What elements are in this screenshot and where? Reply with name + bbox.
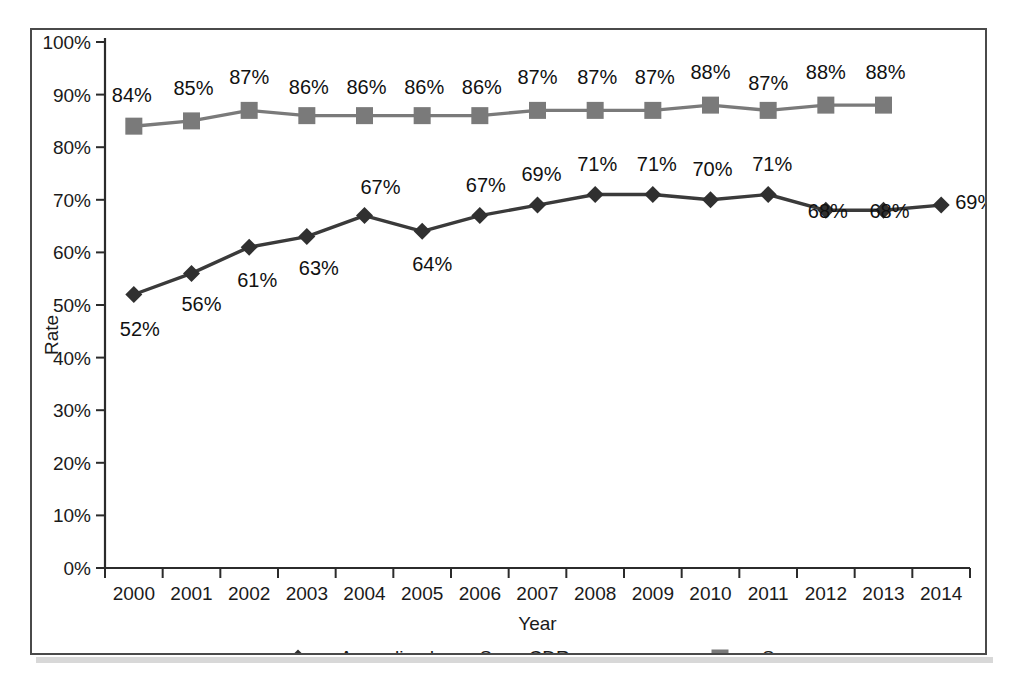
y-axis-tick-label: 50% (53, 295, 91, 316)
y-axis-tick-label: 70% (53, 190, 91, 211)
data-point-cdr (644, 186, 661, 203)
chart-frame: 0%10%20%30%40%50%60%70%80%90%100% 200020… (30, 28, 987, 655)
data-label-cdr: 64% (412, 253, 452, 275)
x-axis-tick-label: 2002 (228, 583, 270, 604)
data-label-cdr: 71% (637, 153, 677, 175)
data-label-cdr: 61% (237, 269, 277, 291)
data-point-cdr (298, 228, 315, 245)
data-point-success (644, 102, 661, 119)
data-label-cdr: 63% (299, 257, 339, 279)
data-point-cdr (241, 239, 258, 256)
x-axis-tick-label: 2006 (459, 583, 501, 604)
data-point-cdr (471, 207, 488, 224)
data-point-success (356, 107, 373, 124)
x-axis-tick-label: 2005 (401, 583, 443, 604)
data-label-cdr: 71% (752, 153, 792, 175)
legend-label: Annualised new S+ve CDR (340, 647, 570, 653)
x-axis-tick-label: 2000 (113, 583, 155, 604)
data-point-success (875, 97, 892, 114)
x-axis-tick-label: 2009 (632, 583, 674, 604)
data-point-cdr (760, 186, 777, 203)
x-axis-tick-label: 2010 (689, 583, 731, 604)
data-point-cdr (125, 286, 142, 303)
data-label-cdr: 67% (466, 174, 506, 196)
y-axis-tick-label: 20% (53, 453, 91, 474)
x-axis-tick-label: 2001 (170, 583, 212, 604)
data-point-cdr (356, 207, 373, 224)
data-point-success (817, 97, 834, 114)
data-label-success: 85% (173, 77, 213, 99)
data-label-success: 88% (806, 61, 846, 83)
legend-marker-square-icon (712, 650, 729, 654)
x-axis-tick-label: 2012 (805, 583, 847, 604)
x-axis-tick-label: 2011 (748, 583, 789, 604)
data-label-success: 84% (112, 84, 152, 106)
data-point-success (414, 107, 431, 124)
data-label-cdr: 67% (360, 176, 400, 198)
data-point-cdr (414, 223, 431, 240)
legend-item-success[interactable]: Success (692, 647, 834, 653)
data-point-success (587, 102, 604, 119)
data-label-success: 86% (462, 76, 502, 98)
x-axis-tick-label: 2008 (574, 583, 616, 604)
chart-legend: Annualised new S+ve CDRSuccess (270, 647, 834, 653)
x-axis-tick-label: 2003 (286, 583, 328, 604)
legend-label: Success (762, 647, 834, 653)
data-label-success: 87% (748, 72, 788, 94)
data-label-cdr: 70% (692, 158, 732, 180)
data-label-cdr: 69% (955, 191, 985, 213)
data-label-success: 86% (404, 76, 444, 98)
data-point-success (702, 97, 719, 114)
data-label-cdr: 52% (120, 318, 160, 340)
data-label-success: 86% (346, 76, 386, 98)
y-axis-tick-label: 100% (42, 32, 91, 53)
data-label-cdr: 69% (521, 163, 561, 185)
y-axis: 0%10%20%30%40%50%60%70%80%90%100% (42, 32, 105, 579)
legend-item-cdr[interactable]: Annualised new S+ve CDR (270, 647, 570, 653)
y-axis-tick-label: 10% (53, 505, 91, 526)
data-label-success: 86% (289, 76, 329, 98)
data-label-success: 87% (517, 66, 557, 88)
y-axis-tick-label: 60% (53, 242, 91, 263)
x-axis-title: Year (518, 613, 557, 634)
data-point-cdr (933, 197, 950, 214)
data-point-success (298, 107, 315, 124)
data-point-success (183, 112, 200, 129)
y-axis-tick-label: 80% (53, 137, 91, 158)
data-label-cdr: 71% (577, 153, 617, 175)
y-axis-tick-label: 90% (53, 85, 91, 106)
data-label-success: 87% (229, 66, 269, 88)
data-point-success (529, 102, 546, 119)
y-axis-title: Rate (41, 315, 62, 355)
data-point-cdr (587, 186, 604, 203)
x-axis-tick-label: 2013 (862, 583, 904, 604)
data-label-success: 88% (690, 61, 730, 83)
legend-marker-diamond-icon (290, 650, 307, 654)
data-point-success (241, 102, 258, 119)
data-label-cdr: 56% (181, 293, 221, 315)
data-point-success (760, 102, 777, 119)
data-point-success (471, 107, 488, 124)
data-point-cdr (702, 191, 719, 208)
y-axis-tick-label: 30% (53, 400, 91, 421)
x-axis-tick-label: 2014 (920, 583, 963, 604)
x-axis-tick-label: 2004 (343, 583, 386, 604)
data-point-cdr (183, 265, 200, 282)
data-label-success: 87% (577, 66, 617, 88)
line-chart: 0%10%20%30%40%50%60%70%80%90%100% 200020… (32, 30, 985, 653)
data-label-cdr: 68% (808, 200, 848, 222)
x-axis: 2000200120022003200420052006200720082009… (105, 568, 970, 604)
y-axis-tick-label: 0% (64, 558, 92, 579)
x-axis-tick-label: 2007 (516, 583, 558, 604)
data-point-success (125, 118, 142, 135)
data-point-cdr (529, 197, 546, 214)
frame-shadow (36, 657, 993, 663)
data-label-success: 87% (635, 66, 675, 88)
data-label-success: 88% (865, 61, 905, 83)
data-label-cdr: 68% (869, 200, 909, 222)
